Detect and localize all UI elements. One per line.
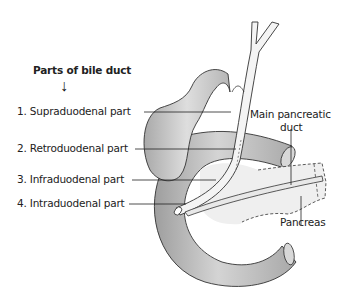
label-main-pancreatic-duct-line2: duct (280, 121, 302, 133)
label-pancreas: Pancreas (280, 216, 326, 228)
label-supraduodenal: 1. Supraduodenal part (17, 105, 131, 117)
label-intraduodenal: 4. Intraduodenal part (17, 197, 125, 209)
label-main-pancreatic-duct: Main pancreatic (250, 108, 331, 120)
label-retroduodenal: 2. Retroduodenal part (17, 142, 128, 154)
figure-title: Parts of bile duct (33, 64, 131, 76)
down-arrow-icon: ↓ (60, 78, 68, 94)
label-infraduodenal: 3. Infraduodenal part (17, 173, 124, 185)
